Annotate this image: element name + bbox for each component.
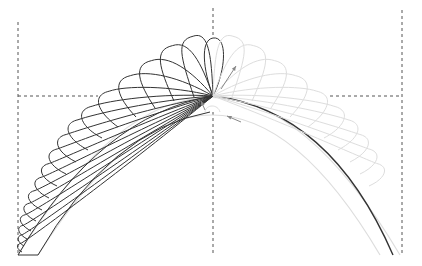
feather-right-ghost-2 xyxy=(213,96,377,174)
arrow-up-right-head xyxy=(232,66,236,71)
feather-left-2 xyxy=(18,96,213,246)
ghost-loop xyxy=(205,106,220,112)
feather-left-6 xyxy=(28,96,213,210)
feather-diagram xyxy=(0,0,422,266)
arch-inner-ghost xyxy=(38,115,380,255)
feather-right-ghost-6 xyxy=(213,87,328,127)
arch-spine-right xyxy=(213,96,393,255)
feather-right-ghost-1 xyxy=(213,96,385,186)
diagram-canvas xyxy=(0,0,422,266)
